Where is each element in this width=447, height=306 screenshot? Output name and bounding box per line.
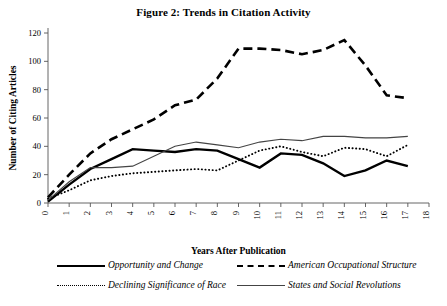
legend-swatch-dotted-icon xyxy=(57,280,105,290)
x-axis-tick-label: 16 xyxy=(379,211,389,220)
y-axis-tick-label: 120 xyxy=(28,28,41,38)
y-axis-tick-label: 60 xyxy=(33,113,42,123)
x-axis-tick-label: 11 xyxy=(273,211,283,219)
x-axis-tick-label: 12 xyxy=(294,211,304,220)
x-axis-tick-label: 18 xyxy=(421,211,431,220)
y-axis-tick-label: 80 xyxy=(33,85,42,95)
legend-entry-states-and-social-revolutions: States and Social Revolutions xyxy=(237,280,401,290)
x-axis-tick-label: 13 xyxy=(315,211,325,220)
y-axis-tick-label: 40 xyxy=(33,141,42,151)
x-axis-tick-label: 3 xyxy=(104,211,114,215)
x-axis-tick-label: 14 xyxy=(336,210,346,219)
y-axis-tick-label: 20 xyxy=(33,170,42,180)
x-axis-tick-label: 6 xyxy=(167,211,177,215)
x-axis-tick-label: 4 xyxy=(125,210,135,215)
legend-swatch-thick-solid-icon xyxy=(57,260,105,270)
legend-label: States and Social Revolutions xyxy=(288,280,401,290)
chart-legend: Opportunity and Change American Occupati… xyxy=(0,258,447,306)
legend-row-1: Opportunity and Change American Occupati… xyxy=(0,260,447,280)
x-axis-tick-label: 10 xyxy=(252,211,262,220)
legend-swatch-thin-solid-icon xyxy=(237,280,285,290)
y-axis-tick-label: 0 xyxy=(37,198,41,208)
legend-label: American Occupational Structure xyxy=(288,260,416,270)
series-line-opportunity-and-change xyxy=(48,149,408,201)
x-axis-tick-label: 8 xyxy=(209,211,219,215)
legend-entry-american-occupational-structure: American Occupational Structure xyxy=(237,260,416,270)
legend-label: Opportunity and Change xyxy=(108,260,203,270)
x-axis-tick-label: 9 xyxy=(231,211,241,215)
legend-swatch-thick-dashed-icon xyxy=(237,260,285,270)
legend-entry-declining-significance-of-race: Declining Significance of Race xyxy=(57,280,226,290)
x-axis-tick-label: 7 xyxy=(188,211,198,215)
y-axis-title: Number of Citing Articles xyxy=(8,65,18,170)
x-axis-tick-label: 2 xyxy=(82,211,92,215)
x-axis-tick-label: 5 xyxy=(146,211,156,215)
series-line-declining-significance-of-race xyxy=(48,145,408,199)
x-axis-tick-label: 15 xyxy=(358,211,368,220)
x-axis-tick-label: 1 xyxy=(61,211,71,215)
y-axis-tick-label: 100 xyxy=(28,56,41,66)
figure-container: Figure 2: Trends in Citation Activity 02… xyxy=(0,0,447,306)
legend-label: Declining Significance of Race xyxy=(108,280,226,290)
x-axis-title: Years After Publication xyxy=(191,246,287,256)
legend-entry-opportunity-and-change: Opportunity and Change xyxy=(57,260,203,270)
x-axis-tick-label: 0 xyxy=(40,211,50,215)
x-axis-tick-label: 17 xyxy=(400,211,410,220)
legend-row-2: Declining Significance of Race States an… xyxy=(0,280,447,300)
